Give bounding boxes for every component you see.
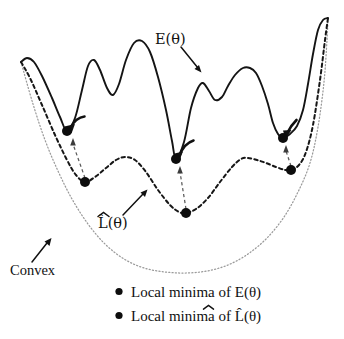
minimum-marker-lhat-1	[80, 177, 90, 187]
minimum-marker-lhat-2	[181, 208, 191, 218]
legend: Local minima of E(θ) Local minima of L̂(…	[115, 284, 261, 325]
surrogate-lhat-curve	[21, 18, 328, 213]
minimum-marker-e-3	[278, 133, 288, 143]
correspondence-arrowhead-1	[70, 138, 76, 146]
label-convex: Convex	[10, 262, 56, 278]
legend-label-minima-e: Local minima of E(θ)	[131, 284, 261, 301]
correspondence-arrow-2	[180, 172, 186, 209]
correspondence-arrowhead-2	[177, 166, 183, 174]
label-energy-curve: E(θ)	[155, 31, 186, 47]
legend-bullet-e-icon	[115, 288, 122, 295]
label-surrogate-curve-group: L̂(θ)	[98, 214, 128, 231]
leader-line-energy	[181, 47, 198, 68]
leader-line-lhat	[123, 194, 143, 215]
legend-bullet-lhat-icon	[115, 312, 122, 319]
minimum-marker-e-2	[171, 154, 181, 164]
correspondence-arrow-3	[286, 151, 291, 166]
correspondence-arrowhead-3	[283, 145, 289, 153]
legend-label-minima-lhat: Local minima of L̂(θ)	[131, 308, 261, 325]
leader-line-convex	[32, 243, 47, 262]
correspondence-arrow-group	[70, 138, 291, 209]
minima-lhat-markers	[80, 165, 296, 218]
minimum-marker-lhat-3	[286, 165, 296, 175]
convex-envelope-curve	[21, 18, 328, 273]
minimum-marker-e-1	[62, 126, 72, 136]
optimization-landscape-figure: E(θ) L̂(θ) Convex Local minima of E(θ) L…	[0, 0, 344, 339]
hook-arrow-group	[67, 117, 297, 162]
label-surrogate-curve: L̂(θ)	[98, 214, 128, 231]
